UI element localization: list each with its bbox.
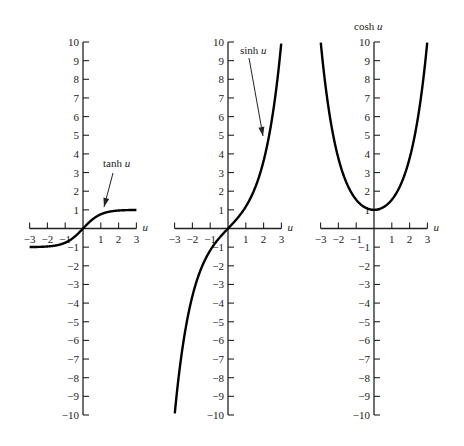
y-tick-label: −9 [212, 390, 224, 402]
x-tick-label: −3 [169, 233, 181, 245]
y-tick-label: −2 [67, 260, 79, 272]
tanh-arrow-head [103, 198, 109, 207]
y-tick-label: 5 [74, 129, 80, 141]
y-tick-label: 8 [365, 73, 371, 85]
panel-cosh: −10−9−8−7−6−5−4−3−2−112345678910−3−2−112… [315, 36, 440, 421]
y-tick-label: 4 [74, 148, 80, 160]
y-tick-label: 10 [213, 36, 225, 48]
y-tick-label: 5 [219, 129, 225, 141]
x-tick-label: 3 [425, 233, 431, 245]
x-tick-label: 1 [243, 233, 249, 245]
y-tick-label: −4 [67, 297, 79, 309]
y-tick-label: −5 [358, 316, 370, 328]
x-tick-label: −1 [350, 233, 362, 245]
y-tick-label: −4 [212, 297, 224, 309]
y-tick-label: −6 [358, 334, 370, 346]
x-tick-label: −3 [24, 233, 36, 245]
tanh-annotation: tanh u [103, 157, 131, 169]
x-tick-label: −2 [187, 233, 199, 245]
x-tick-label: 2 [261, 233, 267, 245]
x-tick-label: −2 [333, 233, 345, 245]
y-tick-label: −5 [67, 316, 79, 328]
y-tick-label: 2 [219, 185, 225, 197]
x-tick-label: 2 [407, 233, 413, 245]
y-tick-label: 7 [365, 92, 371, 104]
y-tick-label: −6 [212, 334, 224, 346]
y-tick-label: −6 [67, 334, 79, 346]
x-tick-label: 3 [134, 233, 140, 245]
y-tick-label: 3 [74, 167, 80, 179]
y-tick-label: 10 [359, 36, 371, 48]
y-tick-label: 6 [219, 111, 225, 123]
cosh-annotation: cosh u [354, 20, 383, 32]
y-tick-label: −3 [358, 278, 370, 290]
y-tick-label: 9 [365, 55, 371, 67]
y-tick-label: −7 [67, 353, 79, 365]
y-tick-label: −8 [212, 372, 224, 384]
y-tick-label: −2 [358, 260, 370, 272]
x-axis-label: u [287, 221, 293, 233]
y-tick-label: −9 [67, 390, 79, 402]
y-tick-label: −10 [207, 409, 225, 421]
y-tick-label: 1 [74, 204, 80, 216]
x-axis-label: u [433, 221, 439, 233]
x-tick-label: 1 [389, 233, 395, 245]
x-tick-label: −3 [315, 233, 327, 245]
sinh-arrow [249, 58, 263, 136]
y-tick-label: 4 [365, 148, 371, 160]
panel-tanh: −10−9−8−7−6−5−4−3−2−112345678910−3−2−112… [24, 36, 149, 421]
y-tick-label: −8 [67, 372, 79, 384]
y-tick-label: 2 [74, 185, 80, 197]
y-tick-label: −4 [358, 297, 370, 309]
sinh-arrow-head [258, 127, 264, 136]
y-tick-label: −7 [212, 353, 224, 365]
y-tick-label: 7 [74, 92, 80, 104]
y-tick-label: 6 [365, 111, 371, 123]
x-tick-label: 2 [116, 233, 122, 245]
y-tick-label: 3 [365, 167, 371, 179]
y-tick-label: −8 [358, 372, 370, 384]
y-tick-label: −3 [212, 278, 224, 290]
y-tick-label: 4 [219, 148, 225, 160]
y-tick-label: −10 [62, 409, 80, 421]
y-tick-label: 3 [219, 167, 225, 179]
y-tick-label: 7 [219, 92, 225, 104]
y-tick-label: 8 [219, 73, 225, 85]
y-tick-label: 10 [68, 36, 80, 48]
y-tick-label: −9 [358, 390, 370, 402]
y-tick-label: −5 [212, 316, 224, 328]
hyperbolic-functions-chart: −10−9−8−7−6−5−4−3−2−112345678910−3−2−112… [0, 0, 464, 446]
y-tick-label: 6 [74, 111, 80, 123]
y-tick-label: −2 [212, 260, 224, 272]
y-tick-label: −7 [358, 353, 370, 365]
panel-sinh: −10−9−8−7−6−5−4−3−2−112345678910−3−2−112… [169, 36, 294, 421]
y-tick-label: 2 [365, 185, 371, 197]
y-tick-label: 9 [74, 55, 80, 67]
x-tick-label: 3 [279, 233, 285, 245]
sinh-annotation: sinh u [240, 44, 267, 56]
y-tick-label: 1 [219, 204, 225, 216]
x-tick-label: −2 [42, 233, 54, 245]
y-tick-label: 5 [365, 129, 371, 141]
x-tick-label: 1 [98, 233, 104, 245]
y-tick-label: −3 [67, 278, 79, 290]
y-tick-label: 9 [219, 55, 225, 67]
x-axis-label: u [142, 221, 148, 233]
y-tick-label: 8 [74, 73, 80, 85]
y-tick-label: −10 [353, 409, 371, 421]
